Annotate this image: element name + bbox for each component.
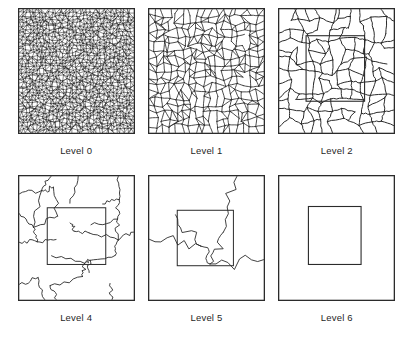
mesh-edges: [19, 10, 133, 133]
mesh-canvas-level-4: [18, 175, 135, 301]
panel-level-0: Level 0: [14, 8, 138, 175]
panel-label-level-6: Level 6: [321, 312, 353, 324]
panel-level-5: Level 5: [144, 175, 268, 342]
inner-region-rect: [309, 207, 362, 265]
panel-border: [279, 176, 395, 301]
panel-level-1: Level 1: [144, 8, 268, 175]
mesh-canvas-level-6: [278, 175, 395, 301]
panel-label-level-1: Level 1: [190, 145, 222, 157]
panel-label-level-5: Level 5: [190, 312, 222, 324]
panel-grid: Level 0 Level 1 Level 2 Level 4 Level 5 …: [0, 0, 413, 348]
inner-region-rect: [177, 210, 233, 265]
mesh-edges: [149, 177, 263, 270]
panel-label-level-2: Level 2: [321, 145, 353, 157]
panel-level-4: Level 4: [14, 175, 138, 342]
inner-region-rect: [47, 208, 106, 265]
mesh-canvas-level-1: [148, 8, 265, 134]
panel-label-level-0: Level 0: [60, 145, 92, 157]
mesh-canvas-level-0: [18, 8, 135, 134]
mesh-canvas-level-5: [148, 175, 265, 301]
mesh-edges: [280, 10, 394, 133]
figure-root: Level 0 Level 1 Level 2 Level 4 Level 5 …: [0, 0, 413, 348]
mesh-edges: [149, 10, 263, 133]
panel-level-6: Level 6: [275, 175, 399, 342]
mesh-canvas-level-2: [278, 8, 395, 134]
mesh-edges: [19, 177, 133, 300]
panel-label-level-4: Level 4: [60, 312, 92, 324]
panel-level-2: Level 2: [275, 8, 399, 175]
